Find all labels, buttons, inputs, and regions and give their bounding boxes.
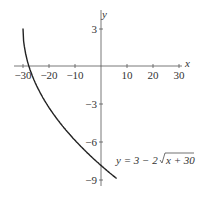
- equation-radicand: x + 30: [165, 154, 195, 166]
- y-tick-label: −9: [85, 174, 97, 186]
- x-axis-label: x: [184, 57, 190, 69]
- x-tick-label: −20: [40, 69, 58, 81]
- x-tick-label: 20: [148, 69, 160, 81]
- chart-svg: −30 −20 −10 10 20 30 3 −3 −6 −9 x y y = …: [0, 0, 199, 198]
- y-tick-label: 3: [92, 23, 98, 35]
- equation-prefix: y = 3 − 2: [115, 154, 158, 166]
- x-tick-label: −10: [66, 69, 84, 81]
- curve-line: [23, 29, 117, 179]
- y-axis-label: y: [101, 8, 107, 20]
- x-tick-label: 30: [174, 69, 186, 81]
- equation-label: y = 3 − 2 x + 30: [115, 153, 195, 166]
- y-tick-label: −6: [85, 136, 97, 148]
- chart: −30 −20 −10 10 20 30 3 −3 −6 −9 x y y = …: [0, 0, 199, 198]
- x-tick-label: 10: [122, 69, 134, 81]
- x-tick-label: −30: [14, 69, 32, 81]
- y-tick-label: −3: [85, 98, 97, 110]
